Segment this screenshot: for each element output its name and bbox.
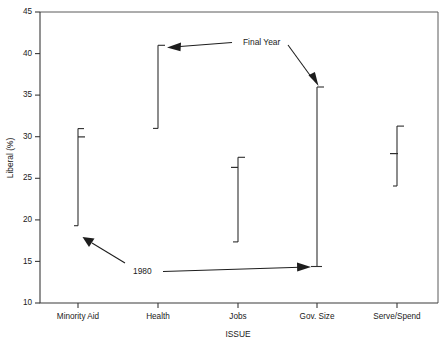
y-axis-tick-labels: 10 15 20 25 30 35 40 45 [23,7,33,307]
y-tick-label: 35 [23,90,33,99]
x-tick-label-health: Health [146,312,170,321]
x-tick-label-gov-size: Gov. Size [300,312,335,321]
y-tick-label: 30 [23,132,33,141]
arrow-head-icon [297,263,311,272]
annotation-final-year: Final Year [167,37,319,86]
x-axis-title: ISSUE [225,329,251,339]
arrow-head-icon [309,72,319,86]
annotation-label-final-year: Final Year [243,37,280,47]
y-tick-label: 15 [23,257,33,266]
x-tick-label-jobs: Jobs [229,312,246,321]
range-bar-gov-size [311,87,324,267]
y-tick-label: 45 [23,7,33,16]
range-bar-minority-aid [74,129,85,226]
annotation-1980: 1980 [83,237,312,276]
range-bar-serve-spend [390,126,404,186]
x-axis-tick-labels: Minority Aid Health Jobs Gov. Size Serve… [57,312,421,321]
range-chart-plot: 10 15 20 25 30 35 40 45 Liberal (%) Mino… [0,0,448,346]
range-bar-health [153,45,165,128]
arrow-head-icon [83,237,95,247]
range-bar-jobs [231,157,245,242]
annotation-label-1980: 1980 [133,266,152,276]
y-tick-label: 10 [23,298,33,307]
chart-figure: 10 15 20 25 30 35 40 45 Liberal (%) Mino… [0,0,448,346]
y-axis-ticks [35,12,40,303]
arrow-head-icon [167,43,181,52]
x-tick-label-serve-spend: Serve/Spend [373,312,421,321]
y-tick-label: 25 [23,173,33,182]
y-tick-label: 20 [23,215,33,224]
y-tick-label: 40 [23,49,33,58]
y-axis-title: Liberal (%) [5,138,15,179]
x-tick-label-minority-aid: Minority Aid [57,312,100,321]
x-axis-ticks [78,303,397,308]
